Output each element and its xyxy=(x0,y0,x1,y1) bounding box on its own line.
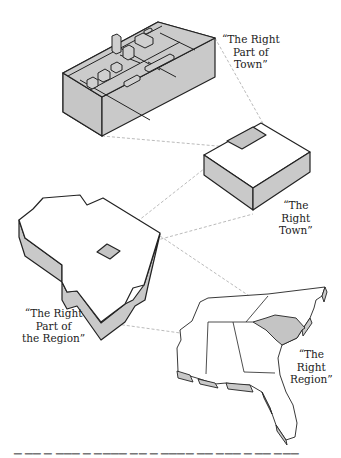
label-line: Part of xyxy=(222,46,280,59)
label-line: Region” xyxy=(290,373,333,386)
city-block-graphic xyxy=(63,22,215,136)
town-box-graphic xyxy=(204,123,310,210)
label-right-part-of-town: “The Right Part of Town” xyxy=(222,33,280,71)
clipped-caption: ▔ ▔▔ ▔ ▔▔▔ ▔ ▔▔▔▔ ▔▔ ▔ ▔▔▔▔ ▔▔ ▔▔▔ ▔ ▔▔ … xyxy=(0,451,341,458)
label-right-region: “The Right Region” xyxy=(290,348,333,386)
caption-text: ▔ ▔▔ ▔ ▔▔▔ ▔ ▔▔▔▔ ▔▔ ▔ ▔▔▔▔ ▔▔ ▔▔▔ ▔ ▔▔ … xyxy=(14,453,299,458)
label-line: Right xyxy=(279,212,313,225)
label-right-part-of-region: “The Right Part of the Region” xyxy=(22,307,85,345)
label-line: Right xyxy=(290,361,333,374)
label-line: “The Right xyxy=(222,33,280,46)
label-line: Part of xyxy=(22,320,85,333)
label-right-town: “The Right Town” xyxy=(279,199,313,237)
label-line: “The Right xyxy=(22,307,85,320)
label-line: “The xyxy=(279,199,313,212)
label-line: Town” xyxy=(222,58,280,71)
label-line: Town” xyxy=(279,224,313,237)
label-line: the Region” xyxy=(22,332,85,345)
diagram-canvas: “The Right Part of Town” “The Right Town… xyxy=(0,0,341,458)
label-line: “The xyxy=(290,348,333,361)
